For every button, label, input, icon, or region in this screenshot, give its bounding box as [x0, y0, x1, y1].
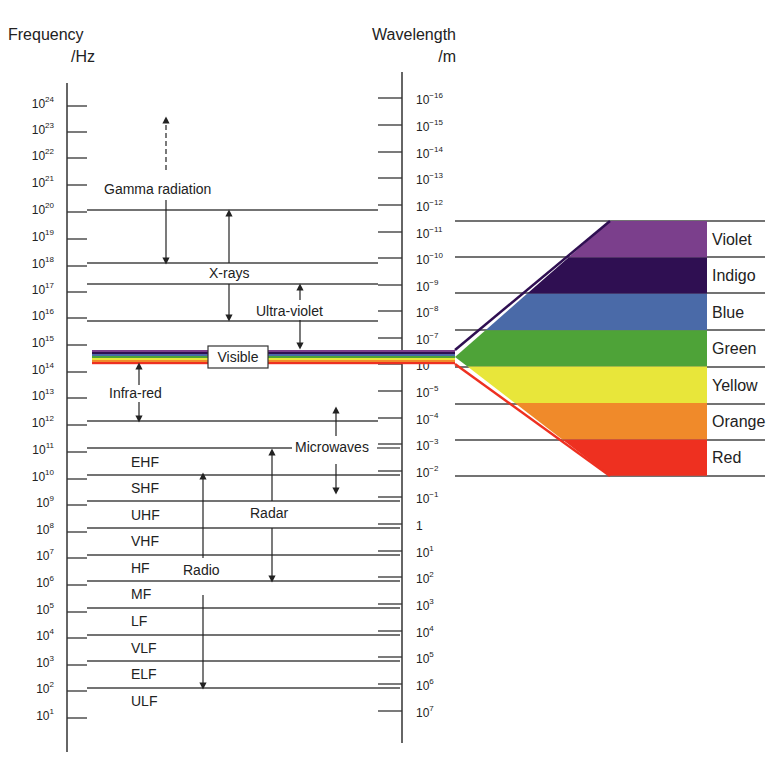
wavelength-tick-label: 10−11 — [416, 225, 443, 241]
frequency-tick-label: 103 — [36, 654, 54, 670]
frequency-tick-label: 1021 — [32, 174, 55, 190]
frequency-tick-label: 102 — [36, 680, 54, 696]
radio-band-lf: LF — [131, 613, 147, 629]
wavelength-tick-label: 10−4 — [416, 411, 439, 427]
radio-band-elf: ELF — [131, 666, 157, 682]
wavelength-tick-label: 10−12 — [416, 198, 443, 214]
color-label-yellow: Yellow — [712, 377, 758, 394]
visible-label: Visible — [218, 349, 259, 365]
wavelength-tick-label: 101 — [416, 544, 434, 560]
wavelength-tick-label: 104 — [416, 624, 434, 640]
wavelength-axis-title: Wavelength — [372, 26, 456, 43]
frequency-tick-label: 1012 — [32, 414, 55, 430]
range-arrows — [139, 120, 336, 686]
radar-label: Radar — [250, 505, 288, 521]
wavelength-tick-label: 105 — [416, 650, 434, 666]
frequency-tick-label: 1024 — [32, 95, 55, 111]
frequency-tick-label: 1022 — [32, 147, 55, 163]
radio-band-hf: HF — [131, 560, 150, 576]
band-green — [455, 330, 707, 366]
color-labels: VioletIndigoBlueGreenYellowOrangeRed — [712, 231, 765, 466]
electromagnetic-spectrum-diagram: Frequency /Hz Wavelength /m 102410231022… — [0, 0, 781, 771]
visible-thin-band — [92, 350, 455, 364]
radio-band-vhf: VHF — [131, 533, 159, 549]
wavelength-tick-label: 107 — [416, 704, 434, 720]
color-label-violet: Violet — [712, 231, 752, 248]
microwaves-label: Microwaves — [295, 439, 369, 455]
frequency-axis-unit: /Hz — [71, 48, 95, 65]
frequency-tick-label: 1010 — [32, 468, 55, 484]
wavelength-tick-label: 10−2 — [416, 464, 439, 480]
wavelength-tick-label: 102 — [416, 570, 434, 586]
wavelength-tick-label: 103 — [416, 597, 434, 613]
frequency-tick-label: 1018 — [32, 255, 55, 271]
color-label-orange: Orange — [712, 413, 765, 430]
wavelength-tick-label: 1 — [416, 519, 423, 533]
ir-label: Infra-red — [109, 385, 162, 401]
frequency-tick-label: 107 — [36, 547, 54, 563]
radio-band-ulf: ULF — [131, 693, 157, 709]
frequency-tick-label: 1011 — [32, 441, 54, 457]
wavelength-tick-label: 10−10 — [416, 251, 443, 267]
radio-band-mf: MF — [131, 586, 151, 602]
wavelength-tick-label: 10−9 — [416, 278, 439, 294]
frequency-tick-label: 1014 — [32, 361, 55, 377]
wavelength-axis-unit: /m — [438, 48, 456, 65]
frequency-tick-label: 1016 — [32, 307, 55, 323]
band-blue — [486, 294, 707, 330]
wavelength-tick-label: 10−8 — [416, 304, 439, 320]
frequency-tick-label: 101 — [36, 707, 54, 723]
gamma-label: Gamma radiation — [104, 181, 211, 197]
color-label-blue: Blue — [712, 304, 744, 321]
frequency-tick-label: 1017 — [32, 281, 55, 297]
frequency-tick-label: 105 — [36, 601, 54, 617]
frequency-tick-label: 1023 — [32, 121, 55, 137]
wavelength-ticks: 10−1610−1510−1410−1310−1210−1110−1010−91… — [378, 91, 443, 720]
frequency-tick-label: 109 — [36, 494, 54, 510]
xrays-label: X-rays — [209, 265, 249, 281]
wavelength-tick-label: 106 — [416, 677, 434, 693]
frequency-ticks: 1024102310221021102010191018101710161015… — [32, 95, 87, 723]
frequency-tick-label: 104 — [36, 627, 54, 643]
visible-spectrum-fan — [455, 221, 707, 476]
wavelength-tick-label: 10−15 — [416, 118, 443, 134]
color-label-indigo: Indigo — [712, 267, 756, 284]
frequency-tick-label: 1019 — [32, 228, 55, 244]
wavelength-tick-label: 10−16 — [416, 91, 443, 107]
frequency-tick-label: 106 — [36, 574, 54, 590]
wavelength-tick-label: 10−13 — [416, 171, 443, 187]
wavelength-tick-label: 10−14 — [416, 145, 443, 161]
color-label-red: Red — [712, 449, 741, 466]
frequency-tick-label: 108 — [36, 521, 54, 537]
uv-label: Ultra-violet — [256, 303, 323, 319]
frequency-axis-title: Frequency — [8, 26, 84, 43]
wavelength-tick-label: 10−7 — [416, 331, 439, 347]
color-label-green: Green — [712, 340, 756, 357]
radio-band-vlf: VLF — [131, 640, 157, 656]
radio-band-uhf: UHF — [131, 507, 160, 523]
frequency-tick-label: 1015 — [32, 334, 55, 350]
radio-band-shf: SHF — [131, 480, 159, 496]
radio-label: Radio — [183, 562, 220, 578]
frequency-tick-label: 1013 — [32, 387, 55, 403]
band-indigo — [527, 257, 707, 293]
wavelength-tick-label: 10−1 — [416, 490, 439, 506]
frequency-tick-label: 1020 — [32, 201, 55, 217]
wavelength-tick-label: 10−3 — [416, 437, 439, 453]
radio-band-ehf: EHF — [131, 454, 159, 470]
wavelength-tick-label: 10−5 — [416, 384, 439, 400]
band-orange — [515, 403, 707, 439]
